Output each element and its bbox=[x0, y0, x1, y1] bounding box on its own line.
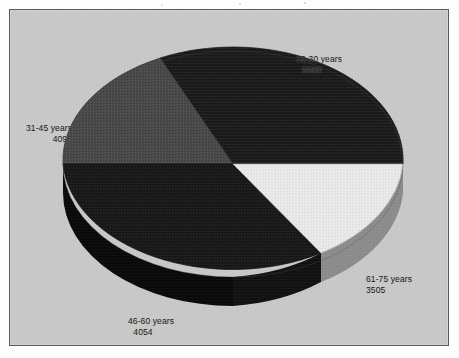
scan-artifact-speckles bbox=[100, 1, 360, 8]
pie-label-61-75-value: 3505 bbox=[366, 285, 412, 296]
pie-top-faces bbox=[63, 47, 403, 269]
pie-label-61-75: 61-75 years 3505 bbox=[366, 274, 412, 295]
pie-label-15-30-name: 15-30 years bbox=[296, 54, 342, 65]
pie-label-46-60: 46-60 years 4054 bbox=[128, 316, 174, 337]
pie-label-46-60-name: 46-60 years bbox=[128, 316, 174, 327]
pie-label-61-75-name: 61-75 years bbox=[366, 274, 412, 285]
pie-label-46-60-value: 4054 bbox=[128, 327, 174, 338]
pie-label-31-45: 31-45 years 4098 bbox=[26, 123, 72, 144]
scanned-page: 15-30 years 5500 31-45 years 4098 46-60 … bbox=[0, 0, 459, 358]
pie-label-31-45-name: 31-45 years bbox=[26, 123, 72, 134]
pie-label-31-45-value: 4098 bbox=[26, 134, 72, 145]
pie-label-15-30: 15-30 years 5500 bbox=[296, 54, 342, 75]
chart-frame: 15-30 years 5500 31-45 years 4098 46-60 … bbox=[9, 9, 449, 346]
pie-label-15-30-value: 5500 bbox=[296, 65, 342, 76]
